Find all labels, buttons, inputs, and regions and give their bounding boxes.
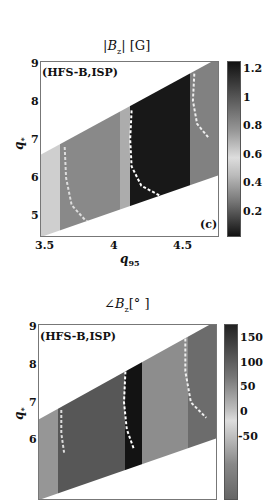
colorbar-tick: 0.8 — [243, 119, 262, 132]
plot-area — [38, 324, 217, 500]
heatmap — [41, 62, 218, 236]
x-tick: 4.5 — [173, 239, 192, 252]
panel-bz-magnitude: |Bz| [G] (HFS-B,ISP) (c) 9 8 7 6 5 3.5 4… — [0, 0, 273, 270]
colorbar-tick: 0.4 — [243, 176, 262, 189]
colorbar-tick: 0.2 — [243, 205, 262, 218]
annotation-label: (HFS-B,ISP) — [42, 66, 118, 79]
colorbar-tick: -50 — [238, 430, 258, 443]
annotation-label: (HFS-B,ISP) — [40, 330, 116, 343]
chart-title: |Bz| [G] — [103, 38, 150, 56]
panel-bz-phase: ∠Bz[° ] (HFS-B,ISP) 9 8 7 6 q* 150 100 5… — [0, 290, 273, 449]
y-tick: 9 — [31, 57, 39, 70]
plot-area — [40, 61, 219, 237]
colorbar-tick: 100 — [240, 356, 263, 369]
colorbar-tick: 1.2 — [243, 62, 262, 75]
heatmap — [39, 325, 216, 499]
x-tick: 3.5 — [35, 239, 54, 252]
y-tick: 8 — [29, 358, 37, 371]
x-tick: 4 — [110, 239, 118, 252]
colorbar — [227, 61, 241, 237]
y-tick: 6 — [31, 171, 39, 184]
y-axis-label: q* — [12, 407, 28, 420]
title-suffix: [° ] — [129, 296, 150, 311]
y-tick: 7 — [31, 133, 39, 146]
y-tick: 5 — [31, 209, 39, 222]
title-suffix: | [G] — [121, 38, 150, 53]
colorbar — [224, 324, 238, 500]
colorbar-tick: 150 — [240, 331, 263, 344]
colorbar-tick: 1 — [243, 91, 251, 104]
title-prefix: ∠ — [104, 296, 115, 311]
x-axis-label: q95 — [120, 252, 140, 268]
title-symbol: B — [107, 38, 117, 53]
y-tick: 7 — [29, 396, 37, 409]
colorbar-tick: 0.6 — [243, 148, 262, 161]
y-tick: 9 — [29, 320, 37, 333]
colorbar-tick: 50 — [240, 380, 255, 393]
panel-label: (c) — [200, 218, 217, 231]
y-tick: 8 — [31, 95, 39, 108]
y-tick: 6 — [29, 433, 37, 446]
chart-title: ∠Bz[° ] — [104, 296, 149, 314]
y-axis-label: q* — [12, 137, 28, 150]
colorbar-tick: 0 — [240, 405, 248, 418]
